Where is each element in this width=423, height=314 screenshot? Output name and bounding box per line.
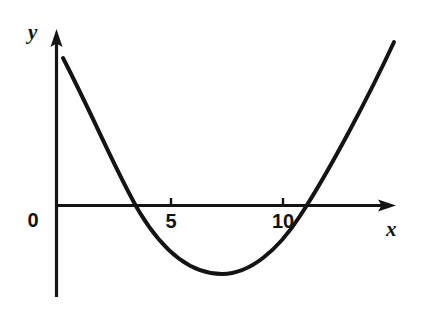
x-tick-label-10: 10 — [266, 211, 300, 231]
parabola-figure: y x 0 5 10 — [0, 0, 423, 314]
x-tick-label-0: 0 — [22, 210, 44, 230]
y-axis-label: y — [28, 22, 37, 43]
x-tick-label-5: 5 — [160, 211, 182, 231]
graph-canvas — [0, 0, 423, 314]
x-axis-label: x — [386, 219, 397, 240]
parabola-curve — [63, 42, 394, 274]
